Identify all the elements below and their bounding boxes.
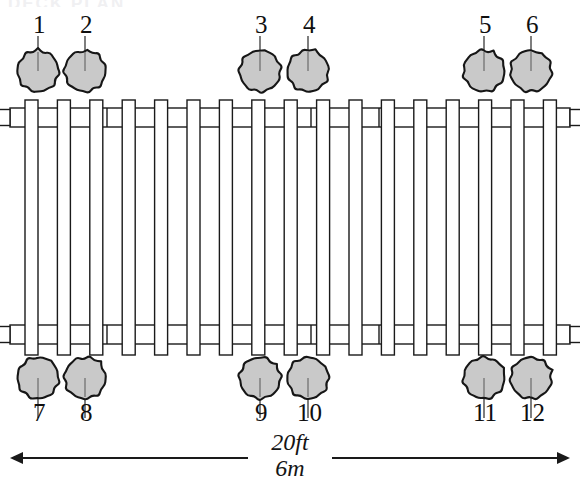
- dimension-arrow-right: [557, 452, 570, 464]
- post-number-1: 1: [33, 12, 46, 37]
- post-number-11: 11: [473, 400, 497, 425]
- bottom-rail-end-tab-right: [570, 327, 580, 343]
- post-number-12: 12: [520, 400, 545, 425]
- bottom-rail-end-tab-left: [0, 327, 10, 343]
- joist-15: [479, 100, 492, 355]
- post-marker-4[interactable]: [288, 36, 329, 92]
- joist-2: [57, 100, 70, 355]
- top-rail-end-tab-left: [0, 110, 10, 126]
- joist-1: [25, 100, 38, 355]
- post-number-10: 10: [297, 400, 322, 425]
- joist-3: [90, 100, 103, 355]
- joist-14: [446, 100, 459, 355]
- top-rail-end-tab-right: [570, 110, 580, 126]
- joist-13: [414, 100, 427, 355]
- joist-9: [284, 100, 297, 355]
- joist-10: [317, 100, 330, 355]
- joist-7: [219, 100, 232, 355]
- post-number-9: 9: [255, 400, 268, 425]
- post-marker-1[interactable]: [17, 36, 59, 92]
- dimension-feet: 20ft: [248, 430, 332, 456]
- joist-12: [381, 100, 394, 355]
- joist-4: [122, 100, 135, 355]
- post-marker-5[interactable]: [463, 36, 505, 91]
- joist-8: [252, 100, 265, 355]
- post-marker-2[interactable]: [63, 36, 105, 92]
- post-number-8: 8: [80, 400, 93, 425]
- dimension-arrow-left: [10, 452, 23, 464]
- post-marker-6[interactable]: [510, 36, 552, 92]
- post-number-4: 4: [303, 12, 316, 37]
- post-marker-3[interactable]: [238, 36, 281, 93]
- dimension-meters: 6m: [248, 456, 332, 482]
- joist-17: [543, 100, 556, 355]
- joist-6: [187, 100, 200, 355]
- joist-11: [349, 100, 362, 355]
- joist-5: [155, 100, 168, 355]
- post-number-2: 2: [80, 12, 93, 37]
- dimension-label: 20ft 6m: [248, 430, 332, 482]
- joist-16: [511, 100, 524, 355]
- post-number-6: 6: [526, 12, 539, 37]
- post-number-3: 3: [255, 12, 268, 37]
- deck-plan-diagram: DECK PLAN 123456789101112 20ft 6m: [0, 0, 580, 497]
- post-number-5: 5: [479, 12, 492, 37]
- post-number-7: 7: [33, 400, 46, 425]
